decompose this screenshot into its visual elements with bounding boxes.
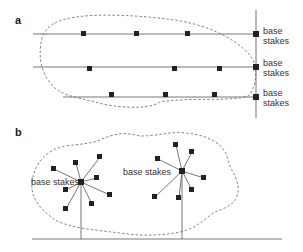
stake-marker	[73, 160, 78, 165]
base-stakes-label-2-line1: base	[263, 58, 283, 68]
stake-marker	[185, 31, 190, 36]
branch	[81, 182, 110, 195]
stake-marker	[107, 192, 112, 197]
stake-marker	[94, 175, 99, 180]
stake-marker	[189, 187, 194, 192]
stake-marker	[152, 194, 157, 199]
stake-marker	[97, 154, 102, 159]
stake-marker	[189, 149, 194, 154]
stake-marker	[155, 156, 160, 161]
branch	[176, 145, 182, 171]
panel-b: b	[15, 126, 282, 239]
base-stake-marker	[179, 168, 185, 174]
base-stake-marker	[253, 64, 259, 70]
base-stakes-label-left: base stakes	[31, 177, 80, 187]
stake-marker	[89, 201, 94, 206]
panel-a: a base stakes base stakes base stakes	[15, 10, 290, 118]
stake-marker	[201, 175, 206, 180]
stake-marker	[172, 66, 177, 71]
panel-b-label: b	[15, 126, 22, 138]
base-stakes-label-3-line1: base	[263, 88, 283, 98]
stake-marker	[81, 31, 86, 36]
stake-marker	[176, 195, 181, 200]
stake-marker	[51, 166, 56, 171]
stake-marker	[109, 92, 114, 97]
panel-a-boundary	[40, 15, 256, 107]
stake-marker	[63, 206, 68, 211]
base-stakes-label-1-line2: stakes	[263, 36, 290, 46]
base-stakes-label-1-line1: base	[263, 26, 283, 36]
base-stakes-label-2-line2: stakes	[263, 68, 290, 78]
stake-marker	[173, 142, 178, 147]
base-stake-marker	[253, 94, 259, 100]
stake-marker	[134, 31, 139, 36]
stake-marker	[87, 66, 92, 71]
panel-a-label: a	[15, 14, 22, 26]
base-stakes-label-3-line2: stakes	[263, 98, 290, 108]
diagram-canvas: a base stakes base stakes base stakes b	[0, 0, 303, 252]
stake-marker	[63, 187, 68, 192]
stake-marker	[163, 92, 168, 97]
base-stakes-label-center: base stakes	[123, 167, 172, 177]
base-stake-marker	[253, 31, 259, 37]
tree-left	[51, 154, 112, 239]
stake-marker	[212, 92, 217, 97]
stake-marker	[217, 66, 222, 71]
branch	[81, 182, 92, 204]
